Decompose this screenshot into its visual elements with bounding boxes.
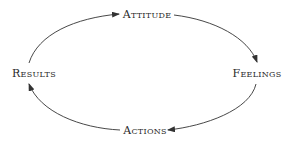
arrow-results-to-attitude [29, 14, 119, 63]
node-attitude: Attitude [123, 9, 172, 20]
node-results: Results [12, 68, 56, 79]
node-actions: Actions [123, 125, 167, 136]
attitude-cycle-diagram: Attitude Feelings Actions Results [0, 0, 294, 148]
node-feelings: Feelings [232, 68, 281, 79]
arrow-actions-to-results [29, 84, 120, 130]
arrow-feelings-to-actions [168, 84, 256, 130]
arrow-attitude-to-feelings [174, 15, 257, 62]
